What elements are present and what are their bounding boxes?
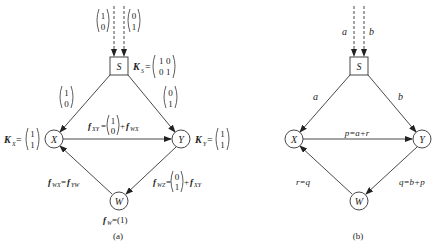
svg-text:K: K bbox=[194, 134, 203, 145]
svg-text:WZ: WZ bbox=[157, 182, 166, 188]
edge-s-x-vector: 1 0 bbox=[60, 86, 73, 109]
svg-text:=: = bbox=[166, 177, 171, 187]
svg-text:0: 0 bbox=[159, 67, 164, 77]
k-s-matrix: K S = 1 0 0 1 bbox=[132, 55, 175, 78]
svg-text:0: 0 bbox=[111, 126, 116, 136]
edge-x-y-label: p=a+r bbox=[344, 128, 370, 138]
svg-text:XY: XY bbox=[193, 182, 202, 188]
svg-text:0: 0 bbox=[175, 172, 180, 182]
svg-text:1: 1 bbox=[159, 56, 164, 66]
edge-w-x-label: r=q bbox=[296, 177, 311, 187]
svg-text:=: = bbox=[16, 134, 22, 145]
caption-a: (a) bbox=[113, 231, 123, 241]
input-vector-left: 1 0 bbox=[97, 9, 109, 32]
input-a-label: a bbox=[342, 26, 347, 37]
k-x-vector: K X = 1 1 bbox=[3, 128, 39, 150]
f-w-equation: f W =(1) bbox=[103, 215, 128, 226]
svg-text:1: 1 bbox=[30, 129, 35, 139]
svg-text:0: 0 bbox=[166, 56, 171, 66]
svg-text:WX: WX bbox=[130, 126, 139, 132]
input-b-label: b bbox=[369, 26, 374, 37]
edge-s-y-label: b bbox=[398, 91, 403, 102]
svg-text:0: 0 bbox=[101, 22, 106, 32]
edge-s-y-vector: 0 1 bbox=[164, 86, 177, 109]
f-wx-equation: f WX = f YW bbox=[48, 177, 80, 188]
caption-b: (b) bbox=[353, 231, 364, 241]
node-s-label: S bbox=[117, 61, 122, 72]
edge-s-y bbox=[368, 75, 416, 132]
edge-s-x bbox=[300, 75, 350, 132]
svg-text:1: 1 bbox=[111, 116, 116, 126]
svg-text:WX: WX bbox=[52, 182, 61, 188]
svg-text:S: S bbox=[141, 68, 144, 74]
svg-text:0: 0 bbox=[132, 11, 137, 21]
svg-text:1: 1 bbox=[166, 67, 171, 77]
svg-text:1: 1 bbox=[168, 99, 173, 109]
f-wz-equation: f WZ = 0 1 + f XY bbox=[153, 171, 202, 192]
svg-text:=: = bbox=[61, 177, 66, 187]
svg-text:+: + bbox=[184, 177, 189, 187]
svg-text:0: 0 bbox=[168, 88, 173, 98]
f-xy-equation: f XY = 1 0 + f WX bbox=[88, 115, 139, 136]
svg-text:=: = bbox=[145, 61, 151, 72]
svg-text:1: 1 bbox=[175, 182, 180, 192]
svg-text:1: 1 bbox=[101, 11, 106, 21]
svg-text:XY: XY bbox=[91, 126, 100, 132]
node-x-label: X bbox=[290, 134, 298, 145]
edge-y-w-label: q=b+p bbox=[399, 177, 425, 187]
svg-text:0: 0 bbox=[64, 99, 69, 109]
edge-s-x-label: a bbox=[313, 91, 318, 102]
svg-text:=(1): =(1) bbox=[112, 215, 128, 225]
svg-text:+: + bbox=[120, 121, 125, 131]
panel-b: a b S a b X Y p=a+r r=q q=b+p W (b) bbox=[285, 6, 431, 241]
network-coding-figure: 1 0 0 1 S K S = 1 0 0 1 bbox=[0, 0, 436, 251]
input-vector-right: 0 1 bbox=[128, 9, 140, 32]
svg-text:=: = bbox=[207, 134, 213, 145]
svg-text:1: 1 bbox=[30, 140, 35, 150]
node-s-label: S bbox=[357, 61, 362, 72]
svg-text:YW: YW bbox=[71, 182, 80, 188]
svg-text:=: = bbox=[101, 121, 106, 131]
svg-text:K: K bbox=[132, 61, 141, 72]
svg-text:1: 1 bbox=[64, 88, 69, 98]
svg-text:K: K bbox=[3, 134, 12, 145]
k-y-vector: K Y = 1 1 bbox=[194, 128, 229, 150]
node-x-label: X bbox=[50, 134, 58, 145]
svg-text:1: 1 bbox=[220, 140, 225, 150]
panel-a: 1 0 0 1 S K S = 1 0 0 1 bbox=[3, 6, 229, 241]
svg-text:1: 1 bbox=[132, 22, 137, 32]
svg-text:1: 1 bbox=[220, 129, 225, 139]
